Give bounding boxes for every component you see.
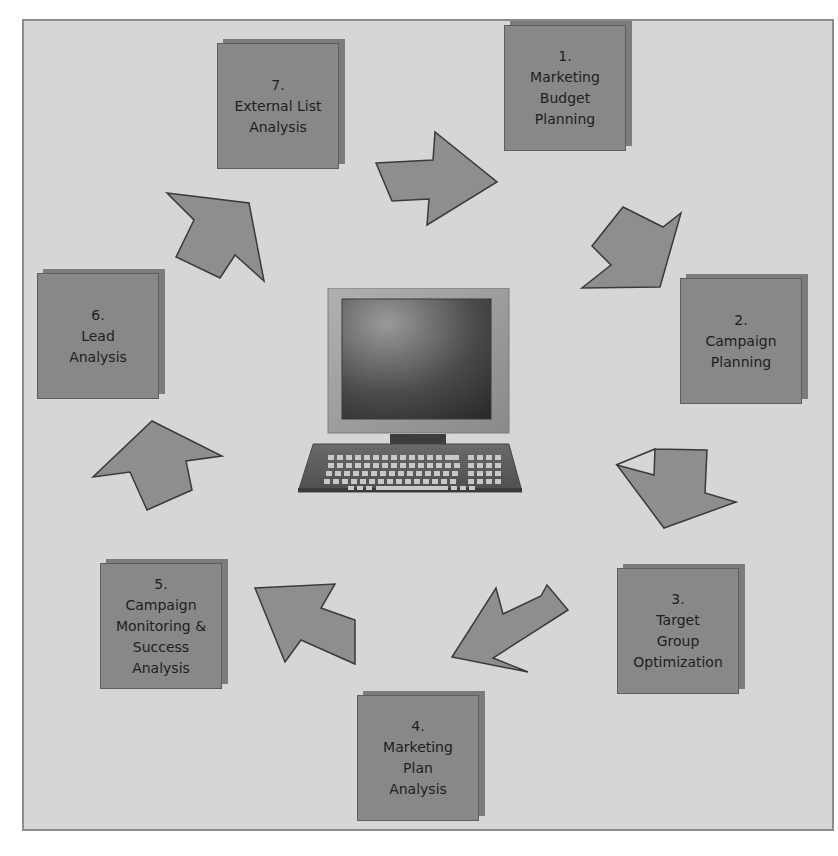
step-box: 6. Lead Analysis xyxy=(37,273,159,399)
arrow-up-left-icon xyxy=(255,584,355,664)
step-label-line: Budget xyxy=(540,88,590,109)
step-label-line: External List xyxy=(234,96,321,117)
step-number: 4. xyxy=(411,716,424,737)
step-label-line: Campaign xyxy=(125,595,196,616)
step-number: 7. xyxy=(271,75,284,96)
step-box: 2. Campaign Planning xyxy=(680,278,802,404)
arrow-up-icon xyxy=(93,421,222,510)
step-4-marketing-plan-analysis: 4. Marketing Plan Analysis xyxy=(357,695,481,823)
step-label-line: Analysis xyxy=(249,117,307,138)
step-number: 2. xyxy=(734,310,747,331)
step-label-line: Analysis xyxy=(69,347,127,368)
step-box: 3. Target Group Optimization xyxy=(617,568,739,694)
step-number: 6. xyxy=(91,305,104,326)
arrow-up-right-icon xyxy=(167,193,264,281)
step-label-line: Plan xyxy=(403,758,433,779)
step-label-line: Analysis xyxy=(389,779,447,800)
step-label-line: Analysis xyxy=(132,658,190,679)
step-number: 5. xyxy=(154,574,167,595)
step-7-external-list-analysis: 7. External List Analysis xyxy=(217,43,341,171)
step-box: 5. Campaign Monitoring & Success Analysi… xyxy=(100,563,222,689)
arrow-down-left-icon xyxy=(452,585,568,672)
step-label-line: Marketing xyxy=(530,67,600,88)
step-label-line: Planning xyxy=(711,352,771,373)
step-label-line: Success xyxy=(133,637,189,658)
arrow-down-right-icon xyxy=(616,449,736,528)
step-label-line: Planning xyxy=(535,109,595,130)
step-label-line: Group xyxy=(657,631,700,652)
step-6-lead-analysis: 6. Lead Analysis xyxy=(37,273,161,401)
step-label-line: Lead xyxy=(81,326,115,347)
step-2-campaign-planning: 2. Campaign Planning xyxy=(680,278,804,406)
step-1-marketing-budget-planning: 1. Marketing Budget Planning xyxy=(504,25,628,153)
step-label-line: Campaign xyxy=(705,331,776,352)
step-box: 7. External List Analysis xyxy=(217,43,339,169)
step-5-campaign-monitoring-success-analysis: 5. Campaign Monitoring & Success Analysi… xyxy=(100,563,224,691)
step-3-target-group-optimization: 3. Target Group Optimization xyxy=(617,568,741,696)
step-label-line: Optimization xyxy=(633,652,723,673)
computer-workstation-icon xyxy=(298,288,522,498)
step-number: 1. xyxy=(558,46,571,67)
step-label-line: Monitoring & xyxy=(116,616,206,637)
step-label-line: Marketing xyxy=(383,737,453,758)
step-label-line: Target xyxy=(656,610,699,631)
step-box: 1. Marketing Budget Planning xyxy=(504,25,626,151)
arrow-right-icon xyxy=(376,132,497,225)
step-number: 3. xyxy=(671,589,684,610)
step-box: 4. Marketing Plan Analysis xyxy=(357,695,479,821)
arrow-down-right-icon xyxy=(582,207,681,288)
